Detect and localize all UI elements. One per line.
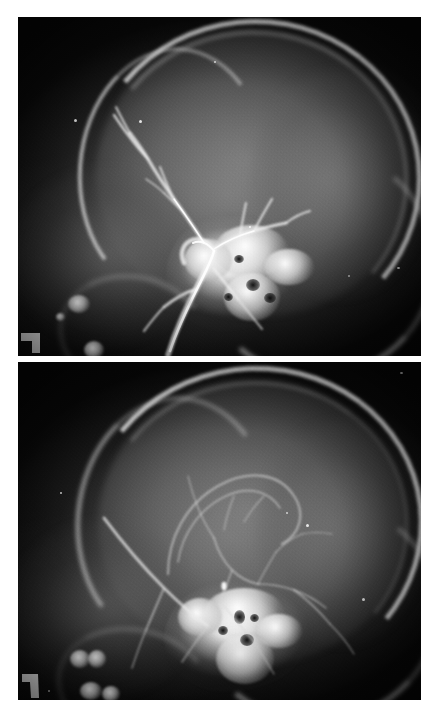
film-vignette-lower [18,362,421,700]
figure-title: Lateral cerebral angiogram series [0,21,1,22]
lower-radiograph-panel[interactable] [18,362,421,700]
film-vignette-upper [18,17,421,358]
figure-plate: Lateral cerebral angiogram series [0,0,437,712]
upper-xray-canvas [18,17,421,358]
upper-radiograph-panel[interactable] [18,17,421,358]
lower-xray-canvas [18,362,421,700]
